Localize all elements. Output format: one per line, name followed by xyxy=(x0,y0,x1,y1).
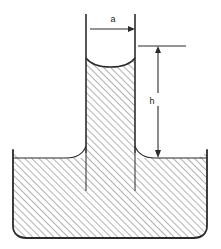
height-dimension: h xyxy=(138,46,186,158)
radius-arrowhead xyxy=(128,26,135,32)
liquid-surface-left xyxy=(13,146,86,158)
height-arrowhead-up xyxy=(155,46,161,53)
liquid-hatch-fill xyxy=(0,0,221,249)
radius-dimension: a xyxy=(90,14,135,32)
liquid-surface-right xyxy=(135,146,207,158)
capillary-rise-figure: a h xyxy=(0,0,221,249)
height-label: h xyxy=(149,96,154,106)
height-arrowhead-down xyxy=(155,150,161,158)
capillary-diagram-svg: a h xyxy=(0,0,221,249)
radius-label: a xyxy=(110,14,115,24)
